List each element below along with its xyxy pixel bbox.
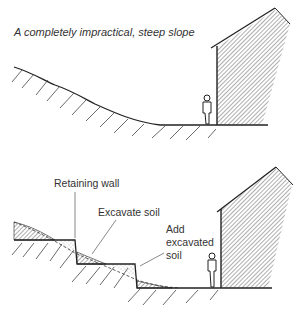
- ground-hatching: [12, 70, 216, 140]
- fill-soil-areas: [55, 240, 135, 276]
- person-figure: [208, 253, 216, 287]
- steep-slope-diagram: A completely impractical, steep slope: [0, 0, 302, 160]
- add-soil-leader: [140, 253, 164, 266]
- steep-slope-illustration: [0, 0, 302, 160]
- label-retaining-wall: Retaining wall: [54, 177, 119, 189]
- excavate-soil-leader: [92, 220, 116, 254]
- label-add-soil-line1: Add: [166, 223, 185, 235]
- house: [211, 8, 290, 125]
- label-excavate-soil: Excavate soil: [98, 206, 160, 218]
- label-add-soil-line2: excavated: [166, 236, 214, 248]
- label-add-soil-line3: soil: [166, 249, 182, 261]
- terraced-slope-diagram: Retaining wall Excavate soil Add excavat…: [0, 160, 302, 317]
- person-figure: [203, 95, 211, 124]
- ground-hatching: [12, 243, 218, 305]
- terraced-slope-illustration: [0, 160, 302, 317]
- house: [217, 167, 293, 288]
